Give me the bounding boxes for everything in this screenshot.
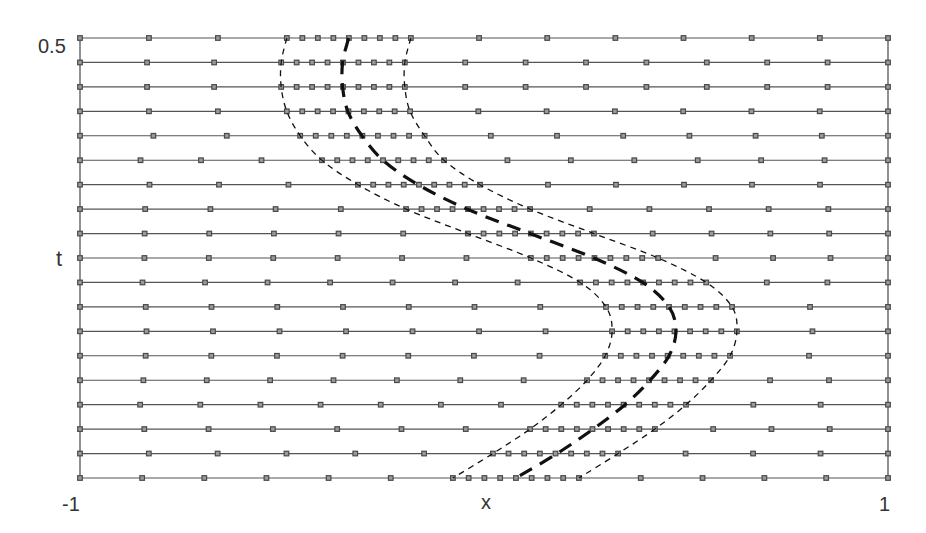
mesh-plot (0, 0, 926, 533)
mesh-lines (80, 38, 888, 478)
y-axis-label: t (56, 248, 62, 270)
x-tick-right: 1 (879, 494, 890, 514)
x-axis-label: x (481, 492, 491, 512)
x-tick-left: -1 (62, 494, 80, 514)
y-tick-top: 0.5 (38, 36, 66, 56)
